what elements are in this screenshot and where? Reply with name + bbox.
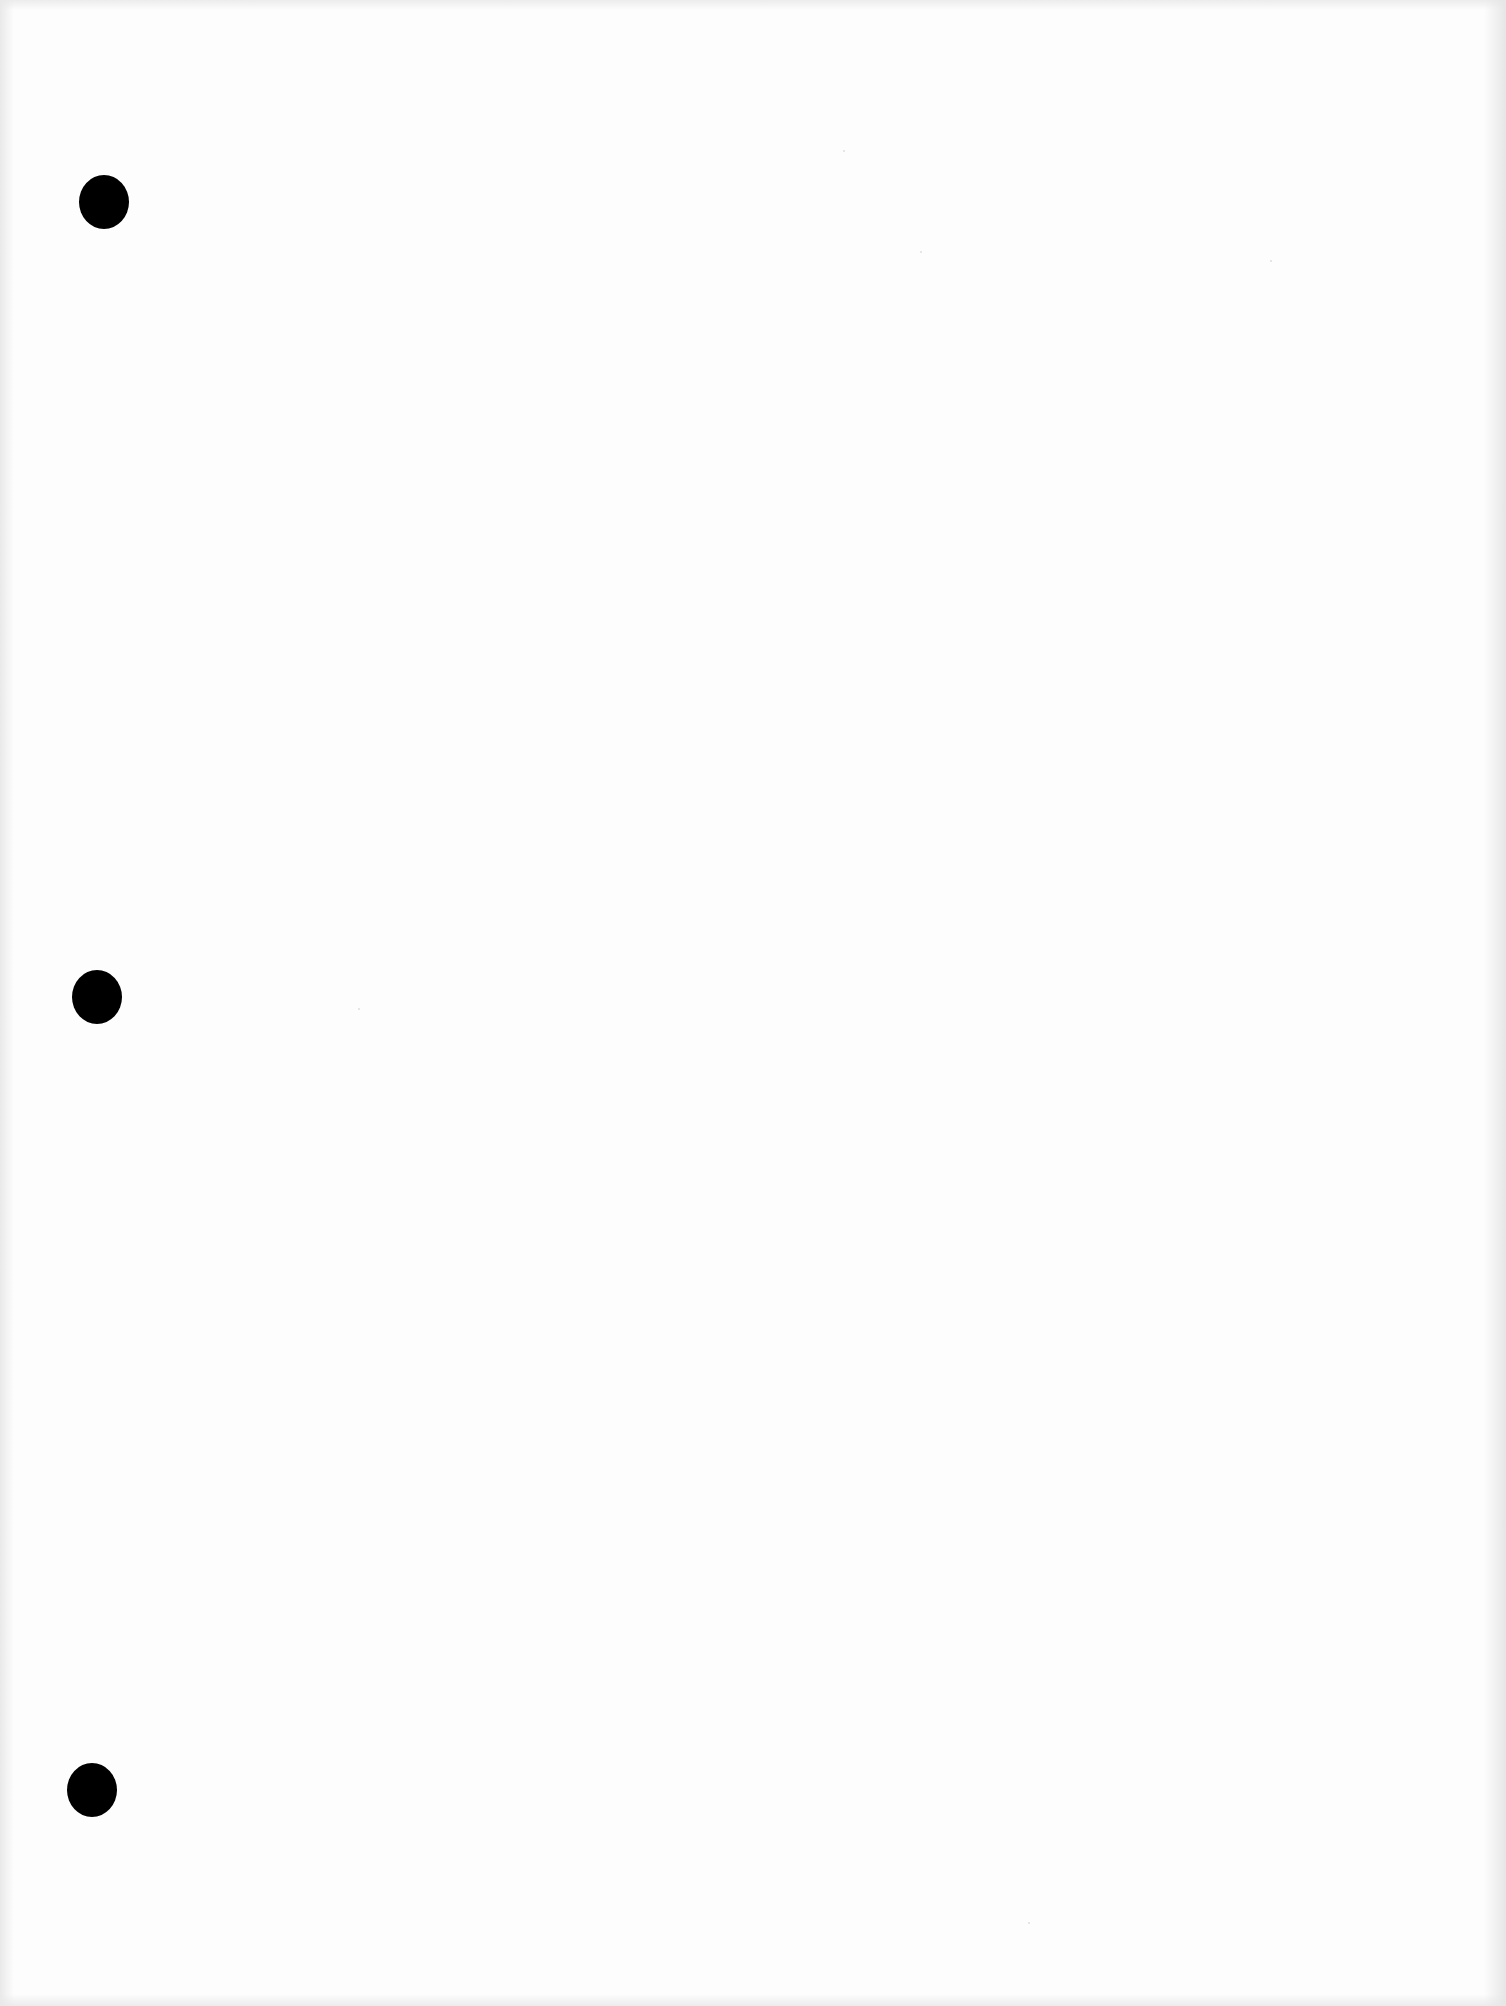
paper-speck: [920, 251, 922, 253]
paper-speck: [1028, 1922, 1030, 1924]
paper-speck: [1270, 260, 1272, 262]
paper-speck: [358, 1008, 360, 1010]
paper-speck: [843, 150, 845, 152]
punch-hole-top: [79, 175, 129, 229]
scanned-page: [0, 0, 1506, 2006]
punch-hole-bottom: [67, 1763, 117, 1817]
punch-hole-middle: [72, 970, 122, 1024]
